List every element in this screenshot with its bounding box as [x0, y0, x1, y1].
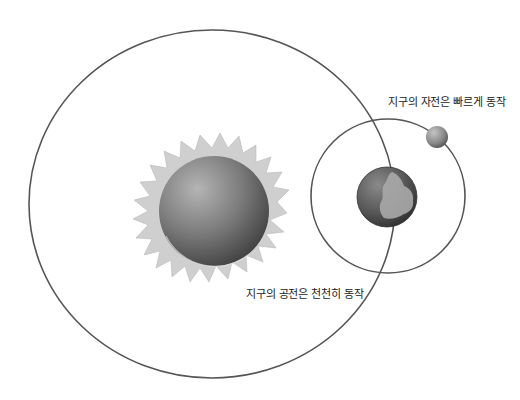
moon-icon	[426, 126, 448, 148]
solar-system-diagram	[0, 0, 520, 400]
revolution-label: 지구의 공전은 천천히 동작	[246, 285, 364, 301]
rotation-label: 지구의 자전은 빠르게 동작	[388, 93, 506, 109]
